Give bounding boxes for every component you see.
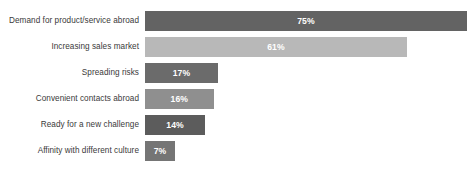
bar-value-label: 17% bbox=[145, 63, 218, 83]
bar-row: Spreading risks 17% bbox=[0, 63, 472, 83]
bar-category-label: Affinity with different culture bbox=[0, 141, 139, 161]
bar-fill[interactable]: 16% bbox=[145, 89, 214, 109]
bar-row: Demand for product/service abroad 75% bbox=[0, 11, 472, 31]
bar-category-label: Demand for product/service abroad bbox=[0, 11, 139, 31]
bar-category-label: Ready for a new challenge bbox=[0, 115, 139, 135]
bar-rows: Demand for product/service abroad 75% In… bbox=[0, 11, 472, 167]
bar-value-label: 7% bbox=[145, 141, 175, 161]
bar-value-label: 61% bbox=[145, 37, 407, 57]
bar-fill[interactable]: 14% bbox=[145, 115, 205, 135]
bar-value-label: 14% bbox=[145, 115, 205, 135]
bar-track: 75% bbox=[145, 11, 467, 31]
bar-fill[interactable]: 61% bbox=[145, 37, 407, 57]
bar-track: 7% bbox=[145, 141, 467, 161]
bar-chart: Demand for product/service abroad 75% In… bbox=[0, 0, 472, 176]
bar-value-label: 75% bbox=[145, 11, 467, 31]
bar-category-label: Convenient contacts abroad bbox=[0, 89, 139, 109]
bar-row: Increasing sales market 61% bbox=[0, 37, 472, 57]
bar-fill[interactable]: 75% bbox=[145, 11, 467, 31]
bar-category-label: Increasing sales market bbox=[0, 37, 139, 57]
bar-track: 61% bbox=[145, 37, 467, 57]
bar-value-label: 16% bbox=[145, 89, 214, 109]
bar-row: Affinity with different culture 7% bbox=[0, 141, 472, 161]
bar-row: Convenient contacts abroad 16% bbox=[0, 89, 472, 109]
bar-track: 14% bbox=[145, 115, 467, 135]
bar-track: 16% bbox=[145, 89, 467, 109]
bar-row: Ready for a new challenge 14% bbox=[0, 115, 472, 135]
bar-fill[interactable]: 17% bbox=[145, 63, 218, 83]
bar-fill[interactable]: 7% bbox=[145, 141, 175, 161]
bar-category-label: Spreading risks bbox=[0, 63, 139, 83]
bar-track: 17% bbox=[145, 63, 467, 83]
